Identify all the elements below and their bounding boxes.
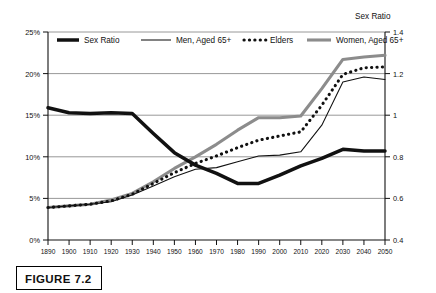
xtick-label-2040: 2040 [357, 248, 372, 255]
y2tick-label-0-4: 0.4 [393, 236, 403, 245]
x-axis-labels: 1890190019101920193019401950196019701980… [41, 248, 393, 255]
legend-label-men-aged-65-plus: Men, Aged 65+ [176, 36, 232, 45]
figure-caption-box: FIGURE 7.2 [16, 266, 102, 290]
y-axis-left-labels: 25% 20% 15% 10% 5% 0% [25, 28, 40, 245]
ytick-label-25: 25% [25, 28, 40, 37]
xtick-label-1890: 1890 [41, 248, 56, 255]
sex-ratio-and-elder-population-line-chart: 25% 20% 15% 10% 5% 0% 1.4 1.2 1 0.8 0.6 … [0, 0, 436, 293]
y2tick-label-1-0: 1 [393, 111, 397, 120]
xtick-label-1960: 1960 [188, 248, 203, 255]
xtick-label-1980: 1980 [230, 248, 245, 255]
xtick-label-1990: 1990 [251, 248, 266, 255]
y-axis-right-ticks [385, 32, 390, 240]
legend-label-elders: Elders [270, 36, 293, 45]
chart-legend: Sex Ratio Men, Aged 65+ Elders Women, Ag… [57, 36, 404, 45]
y2tick-label-1-2: 1.2 [393, 70, 403, 79]
xtick-label-1930: 1930 [125, 248, 140, 255]
xtick-label-2000: 2000 [272, 248, 287, 255]
ytick-label-10: 10% [25, 153, 40, 162]
xtick-label-2020: 2020 [314, 248, 329, 255]
ytick-label-15: 15% [25, 111, 40, 120]
y2tick-label-0-6: 0.6 [393, 194, 403, 203]
xtick-label-1900: 1900 [62, 248, 77, 255]
xtick-label-2050: 2050 [378, 248, 393, 255]
legend-label-sex-ratio: Sex Ratio [84, 36, 120, 45]
y-axis-right-labels: 1.4 1.2 1 0.8 0.6 0.4 [393, 28, 403, 245]
xtick-label-1950: 1950 [167, 248, 182, 255]
x-axis-ticks [48, 240, 385, 245]
ytick-label-20: 20% [25, 70, 40, 79]
y2tick-label-0-8: 0.8 [393, 153, 403, 162]
xtick-label-1970: 1970 [209, 248, 224, 255]
plot-area-background [48, 32, 385, 240]
xtick-label-1910: 1910 [83, 248, 98, 255]
legend-label-women-aged-65-plus: Women, Aged 65+ [336, 36, 404, 45]
figure-container: 25% 20% 15% 10% 5% 0% 1.4 1.2 1 0.8 0.6 … [0, 0, 436, 293]
ytick-label-5: 5% [29, 194, 40, 203]
xtick-label-2030: 2030 [336, 248, 351, 255]
secondary-axis-title: Sex Ratio [355, 12, 391, 21]
xtick-label-1940: 1940 [146, 248, 161, 255]
ytick-label-0: 0% [29, 236, 40, 245]
figure-caption-text: FIGURE 7.2 [25, 273, 92, 285]
xtick-label-1920: 1920 [104, 248, 119, 255]
xtick-label-2010: 2010 [293, 248, 308, 255]
